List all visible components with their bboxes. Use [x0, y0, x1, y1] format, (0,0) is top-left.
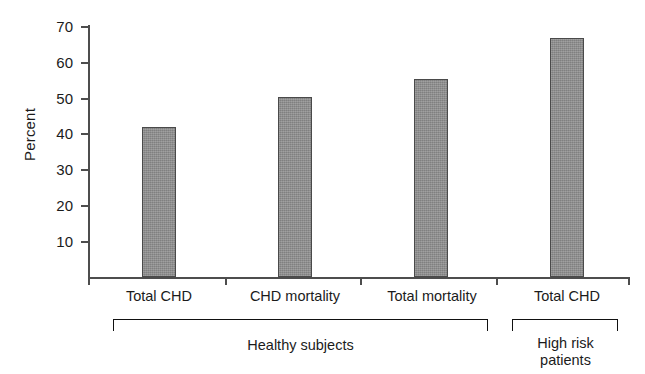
x-tick-mark — [360, 277, 362, 285]
bar-total-chd-healthy — [142, 127, 176, 277]
y-tick-label: 20 — [33, 198, 73, 213]
bar-total-chd-high-risk — [550, 38, 584, 277]
x-tick-mark — [88, 277, 90, 285]
x-tick-mark — [496, 277, 498, 285]
group-label-high-risk-patients: High risk patients — [508, 335, 623, 369]
group-label-line-1: High risk — [508, 335, 623, 352]
y-tick-label: 60 — [33, 55, 73, 70]
x-category-label-0: Total CHD — [99, 288, 219, 304]
x-category-label-3: Total CHD — [507, 288, 627, 304]
y-tick-label: 40 — [33, 126, 73, 141]
x-tick-mark — [225, 277, 227, 285]
group-label-line-2: patients — [508, 352, 623, 369]
group-bracket-healthy-subjects — [113, 319, 488, 331]
y-tick-label: 50 — [33, 91, 73, 106]
bar-chart: Percent 70 60 50 40 30 20 10 Total C — [0, 0, 645, 374]
y-tick-mark — [81, 205, 89, 207]
y-tick-mark — [81, 98, 89, 100]
bar-total-mortality-healthy — [414, 79, 448, 277]
group-label-healthy-subjects: Healthy subjects — [113, 337, 488, 354]
y-tick-label: 30 — [33, 162, 73, 177]
group-bracket-high-risk-patients — [512, 319, 618, 331]
bar-chd-mortality-healthy — [278, 97, 312, 277]
x-category-label-1: CHD mortality — [229, 288, 361, 304]
y-tick-mark — [81, 26, 89, 28]
x-tick-mark — [628, 277, 630, 285]
y-tick-mark — [81, 62, 89, 64]
y-tick-label: 10 — [33, 234, 73, 249]
x-category-label-2: Total mortality — [366, 288, 498, 304]
y-tick-label: 70 — [33, 19, 73, 34]
y-tick-mark — [81, 133, 89, 135]
y-tick-mark — [81, 169, 89, 171]
x-axis-line — [88, 277, 629, 279]
y-tick-mark — [81, 241, 89, 243]
